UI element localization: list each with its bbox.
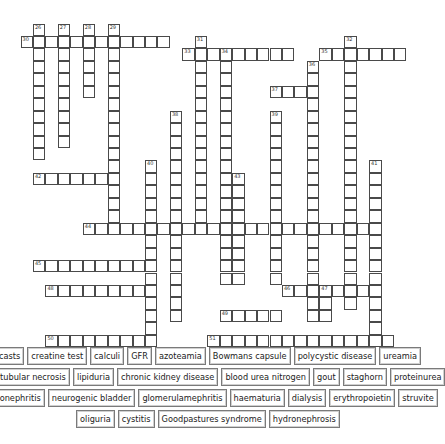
crossword-cell[interactable] — [344, 136, 356, 148]
crossword-cell[interactable] — [207, 223, 219, 235]
crossword-cell[interactable] — [294, 223, 306, 235]
crossword-cell[interactable] — [332, 48, 344, 60]
crossword-cell[interactable] — [195, 136, 207, 148]
crossword-cell[interactable] — [170, 148, 182, 160]
crossword-cell[interactable] — [120, 36, 132, 48]
crossword-cell[interactable] — [307, 297, 319, 309]
crossword-cell[interactable] — [170, 210, 182, 222]
crossword-cell[interactable] — [58, 98, 70, 110]
crossword-cell[interactable] — [58, 61, 70, 73]
crossword-cell[interactable] — [344, 248, 356, 260]
crossword-cell[interactable] — [257, 223, 269, 235]
crossword-cell[interactable] — [33, 148, 45, 160]
crossword-cell[interactable] — [369, 198, 381, 210]
crossword-cell[interactable]: 33 — [182, 48, 194, 60]
crossword-cell[interactable] — [307, 111, 319, 123]
crossword-cell[interactable] — [58, 173, 70, 185]
crossword-cell[interactable]: 36 — [307, 61, 319, 73]
crossword-cell[interactable] — [369, 310, 381, 322]
crossword-cell[interactable] — [95, 260, 107, 272]
crossword-cell[interactable] — [382, 48, 394, 60]
crossword-cell[interactable] — [220, 160, 232, 172]
crossword-cell[interactable] — [382, 335, 394, 347]
crossword-cell[interactable] — [270, 160, 282, 172]
crossword-cell[interactable] — [33, 36, 45, 48]
crossword-cell[interactable] — [220, 185, 232, 197]
crossword-cell[interactable] — [232, 310, 244, 322]
crossword-cell[interactable] — [170, 160, 182, 172]
crossword-cell[interactable] — [344, 173, 356, 185]
crossword-cell[interactable] — [58, 123, 70, 135]
crossword-cell[interactable] — [369, 285, 381, 297]
crossword-cell[interactable] — [232, 210, 244, 222]
crossword-cell[interactable] — [95, 36, 107, 48]
crossword-cell[interactable] — [95, 223, 107, 235]
crossword-cell[interactable] — [195, 148, 207, 160]
crossword-cell[interactable] — [220, 248, 232, 260]
crossword-cell[interactable]: 44 — [83, 223, 95, 235]
crossword-cell[interactable] — [270, 335, 282, 347]
crossword-cell[interactable] — [220, 148, 232, 160]
crossword-cell[interactable] — [294, 285, 306, 297]
crossword-cell[interactable] — [133, 223, 145, 235]
crossword-cell[interactable] — [369, 248, 381, 260]
crossword-cell[interactable] — [145, 297, 157, 309]
crossword-cell[interactable] — [108, 210, 120, 222]
crossword-cell[interactable] — [195, 61, 207, 73]
crossword-cell[interactable] — [33, 73, 45, 85]
crossword-cell[interactable] — [307, 198, 319, 210]
crossword-cell[interactable]: 45 — [33, 260, 45, 272]
crossword-cell[interactable] — [58, 111, 70, 123]
crossword-cell[interactable] — [307, 310, 319, 322]
crossword-cell[interactable] — [83, 73, 95, 85]
crossword-cell[interactable] — [332, 285, 344, 297]
crossword-cell[interactable] — [220, 123, 232, 135]
crossword-cell[interactable] — [319, 310, 331, 322]
crossword-cell[interactable] — [145, 322, 157, 334]
crossword-cell[interactable] — [108, 98, 120, 110]
crossword-cell[interactable] — [33, 123, 45, 135]
crossword-cell[interactable] — [83, 61, 95, 73]
crossword-cell[interactable]: 37 — [270, 86, 282, 98]
crossword-cell[interactable] — [58, 335, 70, 347]
crossword-cell[interactable] — [108, 86, 120, 98]
crossword-cell[interactable] — [195, 111, 207, 123]
crossword-cell[interactable] — [270, 273, 282, 285]
crossword-cell[interactable] — [369, 335, 381, 347]
crossword-cell[interactable] — [195, 73, 207, 85]
crossword-cell[interactable] — [195, 48, 207, 60]
crossword-cell[interactable] — [369, 273, 381, 285]
crossword-cell[interactable] — [220, 61, 232, 73]
crossword-cell[interactable] — [307, 148, 319, 160]
crossword-cell[interactable] — [307, 260, 319, 272]
crossword-cell[interactable] — [369, 297, 381, 309]
crossword-cell[interactable] — [195, 173, 207, 185]
crossword-cell[interactable] — [270, 136, 282, 148]
crossword-cell[interactable] — [307, 285, 319, 297]
crossword-cell[interactable] — [70, 36, 82, 48]
crossword-cell[interactable] — [332, 335, 344, 347]
crossword-cell[interactable] — [58, 260, 70, 272]
crossword-cell[interactable] — [108, 223, 120, 235]
crossword-cell[interactable] — [344, 235, 356, 247]
crossword-cell[interactable]: 34 — [220, 48, 232, 60]
crossword-cell[interactable]: 41 — [369, 160, 381, 172]
crossword-cell[interactable] — [70, 173, 82, 185]
crossword-cell[interactable] — [220, 335, 232, 347]
crossword-cell[interactable] — [145, 173, 157, 185]
crossword-cell[interactable] — [33, 86, 45, 98]
crossword-cell[interactable] — [232, 198, 244, 210]
crossword-cell[interactable] — [58, 48, 70, 60]
crossword-cell[interactable] — [307, 273, 319, 285]
crossword-cell[interactable] — [270, 173, 282, 185]
crossword-cell[interactable] — [307, 73, 319, 85]
crossword-cell[interactable] — [307, 160, 319, 172]
crossword-cell[interactable] — [369, 210, 381, 222]
crossword-cell[interactable] — [195, 86, 207, 98]
crossword-cell[interactable] — [195, 210, 207, 222]
crossword-cell[interactable] — [369, 223, 381, 235]
crossword-cell[interactable] — [33, 111, 45, 123]
crossword-cell[interactable] — [120, 285, 132, 297]
crossword-cell[interactable] — [145, 273, 157, 285]
crossword-cell[interactable] — [245, 310, 257, 322]
